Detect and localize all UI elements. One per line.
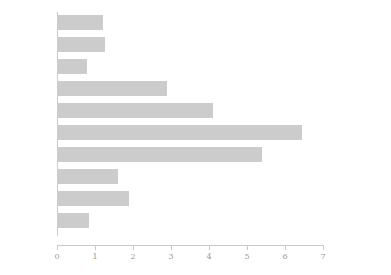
x-axis-tick-label: 5 [237,252,257,261]
bar-row: UK [57,12,323,34]
bar [57,125,302,140]
x-axis-tick [209,245,210,250]
bar [57,81,167,96]
bar-row: Belgium [57,100,323,122]
x-axis-tick [285,245,286,250]
x-axis-tick [133,245,134,250]
bar [57,213,89,228]
bar [57,59,87,74]
x-axis-tick-label: 4 [199,252,219,261]
bar [57,169,118,184]
x-axis-tick [323,245,324,250]
bar-row: Netherlands [57,78,323,100]
bar-row: Germany [57,34,323,56]
bar [57,191,129,206]
bar-row: USA [57,56,323,78]
x-axis-tick-label: 7 [313,252,333,261]
bar-row: Spain [57,166,323,188]
bar [57,37,105,52]
x-axis-line [57,245,324,246]
x-axis-tick-label: 0 [47,252,67,261]
bar-row: France [57,122,323,144]
bar [57,103,213,118]
bar-row: Italy [57,144,323,166]
x-axis-tick [171,245,172,250]
x-axis-tick [247,245,248,250]
plot-area: UKGermanyUSANetherlandsBelgiumFranceItal… [57,12,323,234]
x-axis-tick [95,245,96,250]
bar-row: Ireland [57,210,323,232]
x-axis-tick-label: 3 [161,252,181,261]
bar [57,15,103,30]
x-axis-tick [57,245,58,250]
bar [57,147,262,162]
bar-chart: UKGermanyUSANetherlandsBelgiumFranceItal… [0,0,391,275]
x-axis-tick-label: 1 [85,252,105,261]
x-axis-tick-label: 2 [123,252,143,261]
x-axis-tick-label: 6 [275,252,295,261]
bar-row: Sweden [57,188,323,210]
